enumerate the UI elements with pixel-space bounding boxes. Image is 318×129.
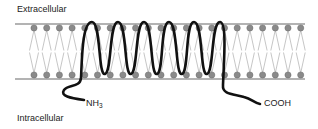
lipid-head [94,72,100,78]
lipid-tail [271,53,280,74]
n-terminus-main: NH [86,98,99,108]
lipid-head [234,25,240,31]
lipid-tail [30,53,39,74]
lipid-head [120,72,126,78]
lipid-head [56,72,62,78]
lipid-head [44,72,50,78]
lipid-head [82,72,88,78]
lipid-tail [233,30,242,51]
membrane-protein-diagram [0,0,318,129]
lipid-head [247,25,253,31]
lipid-tail [296,53,305,74]
lipid-tail [68,30,77,51]
lipid-head [298,25,304,31]
lipid-tail [55,53,64,74]
lipid-head [260,72,266,78]
lipid-head [56,25,62,31]
lipid-tail [258,30,267,51]
lipid-head [272,25,278,31]
transmembrane-protein [63,22,260,104]
lipid-tail [296,30,305,51]
lipid-head [272,72,278,78]
lipid-head [107,72,113,78]
lipid-tail [42,30,51,51]
lipid-head [260,25,266,31]
protein-chain [63,22,260,104]
lipid-head [196,72,202,78]
lipid-tail [284,30,293,51]
lipid-head [285,72,291,78]
lipid-tail [42,53,51,74]
n-terminus-label: NH3 [86,98,103,109]
lipid-head [247,72,253,78]
lipid-tail [30,30,39,51]
lipid-tail [271,30,280,51]
lipid-head [69,72,75,78]
lipid-head [44,25,50,31]
lipid-tail [245,53,254,74]
lipid-tail [68,53,77,74]
lipid-head [31,25,37,31]
lipid-tail [258,53,267,74]
n-terminus-subscript: 3 [99,102,103,109]
lipid-head [171,72,177,78]
lipid-head [69,25,75,31]
lipid-head [234,72,240,78]
intracellular-label: Intracellular [17,113,64,123]
c-terminus-label: COOH [264,98,291,108]
lipid-head [298,72,304,78]
lipid-tail [284,53,293,74]
lipid-head [31,72,37,78]
lipid-head [145,72,151,78]
lipid-tail [55,30,64,51]
lipid-tail [245,30,254,51]
extracellular-label: Extracellular [17,4,67,14]
lipid-head [285,25,291,31]
lipid-tail [233,53,242,74]
